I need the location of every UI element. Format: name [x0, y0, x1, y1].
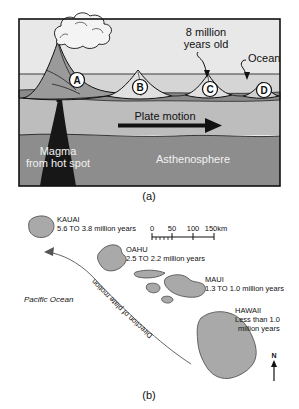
- magma-label-line-1: Magma: [40, 145, 78, 157]
- volcano-marker-c-label: C: [206, 84, 213, 95]
- island-lanai: [146, 283, 160, 293]
- hot-spot-figure: A B C D 8 million years old Ocean Plate …: [0, 0, 299, 409]
- volcano-marker-d: D: [257, 83, 272, 98]
- panel-b-caption: (b): [142, 389, 155, 401]
- volcano-marker-a: A: [70, 73, 85, 88]
- volcano-marker-b-label: B: [136, 82, 143, 93]
- volcano-marker-c: C: [203, 82, 218, 97]
- island-kahoolawe: [162, 296, 173, 303]
- age-callout-line-2: years old: [184, 38, 229, 50]
- island-kauai-age: 5.6 TO 3.8 million years: [57, 224, 136, 233]
- island-oahu-age: 2.5 TO 2.2 million years: [126, 254, 205, 263]
- island-maui-age: 1.3 TO 1.0 million years: [205, 284, 284, 293]
- island-hawaii-age-line-2: million years: [238, 324, 280, 333]
- island-kauai-name: KAUAI: [57, 215, 80, 224]
- compass-north-label: N: [271, 352, 276, 359]
- scalebar-label-50: 50: [168, 224, 176, 233]
- ocean-label: Ocean: [248, 52, 280, 64]
- island-kauai: [29, 216, 54, 238]
- asthenosphere-label: Asthenosphere: [156, 153, 230, 165]
- age-callout-line-1: 8 million: [186, 26, 226, 38]
- scalebar-label-0: 0: [150, 224, 154, 233]
- island-oahu-name: OAHU: [126, 245, 148, 254]
- panel-a: A B C D 8 million years old Ocean Plate …: [19, 13, 280, 202]
- scalebar-label-100: 100: [187, 224, 200, 233]
- magma-label-line-2: from hot spot: [26, 157, 90, 169]
- island-maui-name: MAUI: [205, 275, 224, 284]
- island-hawaii-name: HAWAII: [235, 306, 261, 315]
- volcano-marker-d-label: D: [260, 85, 267, 96]
- volcano-marker-a-label: A: [73, 75, 80, 86]
- volcano-marker-b: B: [133, 80, 148, 95]
- pacific-ocean-label: Pacific Ocean: [24, 295, 74, 304]
- plate-motion-label: Plate motion: [134, 110, 195, 122]
- island-hawaii-age-line-1: Less than 1.0: [235, 315, 280, 324]
- panel-a-caption: (a): [142, 190, 155, 202]
- scalebar-label-150km: 150km: [205, 224, 228, 233]
